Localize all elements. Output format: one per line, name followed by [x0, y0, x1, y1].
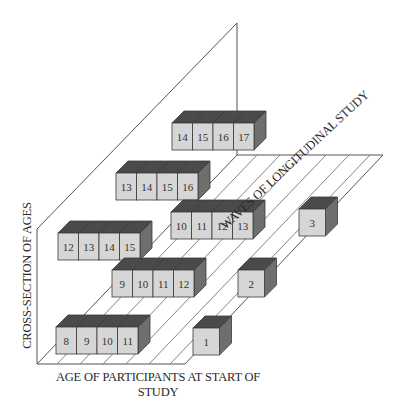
x-axis-label: AGE OF PARTICIPANTS AT START OF STUDY	[28, 370, 288, 400]
svg-text:15: 15	[197, 131, 209, 143]
x-axis-label-line1: AGE OF PARTICIPANTS AT START OF	[28, 370, 288, 385]
svg-text:14: 14	[104, 241, 116, 253]
svg-text:9: 9	[120, 278, 126, 290]
svg-text:12: 12	[178, 278, 189, 290]
svg-text:13: 13	[83, 241, 95, 253]
svg-text:1: 1	[204, 336, 210, 348]
svg-text:12: 12	[63, 241, 74, 253]
svg-text:17: 17	[238, 131, 250, 143]
svg-text:11: 11	[196, 220, 207, 232]
svg-text:11: 11	[122, 335, 133, 347]
svg-text:15: 15	[162, 181, 174, 193]
wave-marker: 2	[238, 258, 277, 297]
svg-text:11: 11	[158, 278, 169, 290]
svg-text:14: 14	[177, 131, 189, 143]
svg-text:8: 8	[64, 335, 70, 347]
svg-text:9: 9	[84, 335, 90, 347]
svg-text:16: 16	[218, 131, 230, 143]
diagram-canvas: 1415161713141516101112133121314159101112…	[0, 0, 405, 408]
svg-text:2: 2	[249, 278, 255, 290]
svg-text:13: 13	[121, 181, 133, 193]
x-axis-label-line2: STUDY	[28, 385, 288, 400]
svg-text:10: 10	[137, 278, 149, 290]
svg-text:10: 10	[102, 335, 114, 347]
svg-text:3: 3	[310, 217, 316, 229]
wave-marker: 1	[193, 316, 232, 355]
svg-text:15: 15	[124, 241, 136, 253]
svg-text:14: 14	[141, 181, 153, 193]
cross-sequential-design-diagram: 1415161713141516101112133121314159101112…	[0, 0, 405, 408]
y-axis-label: CROSS-SECTION OF AGES	[20, 191, 35, 361]
svg-text:16: 16	[182, 181, 194, 193]
svg-text:10: 10	[176, 220, 188, 232]
wave-marker: 3	[299, 197, 338, 236]
